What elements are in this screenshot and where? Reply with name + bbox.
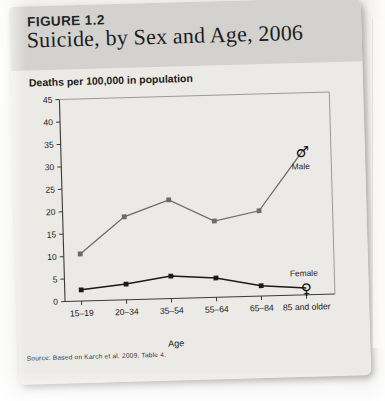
y-tick-label: 30	[45, 162, 55, 172]
y-tick-label: 35	[44, 140, 54, 150]
chart-svg: 051015202530354045 15–1920–3435–5455–646…	[29, 86, 353, 323]
data-point-marker	[168, 274, 173, 279]
data-point-marker	[259, 283, 264, 288]
page-edge-strip	[372, 18, 383, 348]
y-tick-label: 25	[45, 185, 55, 195]
data-point-marker	[124, 282, 129, 287]
x-tick-label: 15–19	[70, 308, 94, 319]
series-label-male: Male	[292, 161, 311, 172]
x-tick-label: 35–54	[160, 305, 184, 316]
x-tick-label: 20–34	[115, 306, 139, 317]
data-point-marker	[122, 214, 127, 219]
y-tick-label: 10	[47, 252, 57, 262]
series-end-symbols: ♂Male♀Female	[286, 143, 319, 299]
y-tick-label: 20	[46, 207, 56, 217]
scanned-page-background: FIGURE 1.2 Suicide, by Sex and Age, 2006…	[0, 0, 385, 401]
figure-page: FIGURE 1.2 Suicide, by Sex and Age, 2006…	[9, 0, 371, 385]
series-label-female: Female	[290, 268, 319, 279]
line-chart: 051015202530354045 15–1920–3435–5455–646…	[29, 86, 353, 323]
y-tick-label: 0	[53, 297, 58, 307]
data-point-marker	[213, 276, 218, 281]
data-point-marker	[257, 208, 262, 213]
y-tick-label: 40	[43, 117, 53, 127]
x-tick-label: 65–84	[250, 303, 274, 314]
x-axis-title: Age	[168, 338, 184, 348]
data-point-marker	[166, 197, 171, 202]
y-tick-label: 45	[43, 95, 53, 105]
x-tick-label: 85 and older	[283, 301, 331, 312]
y-tick-label: 5	[52, 274, 57, 284]
male-symbol-icon: ♂	[295, 143, 309, 161]
data-point-marker	[78, 251, 83, 256]
series-female	[78, 270, 306, 294]
series-male	[75, 151, 305, 256]
y-tick-label: 15	[46, 229, 56, 239]
data-point-marker	[212, 219, 217, 224]
x-tick-label: 55–64	[205, 304, 229, 315]
female-symbol-icon: ♀	[301, 280, 312, 298]
data-point-marker	[79, 287, 84, 292]
